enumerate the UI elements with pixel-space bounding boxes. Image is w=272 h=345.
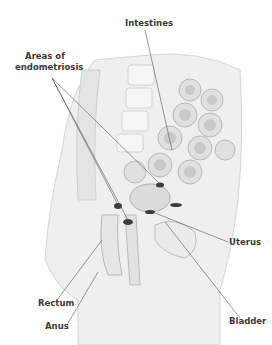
label-endometriosis: Areas of endometriosis: [15, 51, 75, 73]
label-rectum: Rectum: [38, 298, 74, 309]
label-endometriosis-line1: Areas of: [15, 51, 75, 62]
label-intestines: Intestines: [125, 18, 173, 29]
uterus: [130, 184, 170, 212]
label-endometriosis-line2: endometriosis: [15, 62, 75, 73]
anatomy-diagram: Intestines Areas of endometriosis Uterus…: [0, 0, 272, 345]
label-anus: Anus: [45, 321, 69, 332]
label-uterus: Uterus: [229, 237, 261, 248]
label-bladder: Bladder: [229, 316, 266, 327]
